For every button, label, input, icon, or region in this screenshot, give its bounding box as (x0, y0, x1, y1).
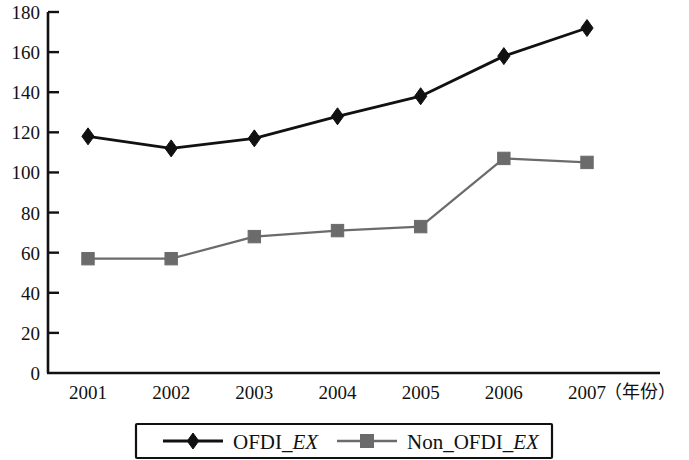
y-axis-tick-label: 120 (12, 122, 41, 143)
series-data-point (248, 230, 260, 242)
series-data-point (165, 252, 177, 264)
x-axis-tick-label: 2007 (568, 382, 606, 403)
line-chart: 020406080100120140160180 200120022003200… (0, 0, 689, 460)
x-axis-tick-label: 2003 (235, 382, 273, 403)
series-data-point (414, 220, 426, 232)
x-axis-tick-label: 2002 (152, 382, 190, 403)
y-axis-tick-label: 60 (21, 243, 40, 264)
legend-label: Non_OFDI_EX (407, 430, 540, 454)
series-data-point (331, 224, 343, 236)
y-axis-tick-label: 80 (21, 203, 40, 224)
y-axis-tick-label: 20 (21, 323, 40, 344)
y-axis-tick-label: 180 (12, 2, 41, 23)
x-axis-tick-label: 2005 (402, 382, 440, 403)
x-axis-tick-label: 2006 (485, 382, 523, 403)
series-data-point (498, 152, 510, 164)
chart-legend: OFDI_EXNon_OFDI_EX (136, 424, 552, 458)
legend-marker (361, 435, 374, 448)
chart-canvas: 020406080100120140160180 200120022003200… (0, 0, 689, 460)
y-axis-tick-label: 40 (21, 283, 40, 304)
y-axis-tick-label: 160 (12, 42, 41, 63)
series-data-point (581, 156, 593, 168)
series-data-point (82, 252, 94, 264)
x-axis-unit-label: （年份） (604, 382, 676, 402)
x-axis-tick-label: 2004 (319, 382, 358, 403)
y-axis-tick-label: 140 (12, 82, 41, 103)
x-axis-tick-label: 2001 (69, 382, 107, 403)
y-axis-tick-label: 100 (12, 162, 41, 183)
y-axis-tick-label: 0 (31, 363, 41, 384)
legend-label: OFDI_EX (233, 430, 319, 454)
